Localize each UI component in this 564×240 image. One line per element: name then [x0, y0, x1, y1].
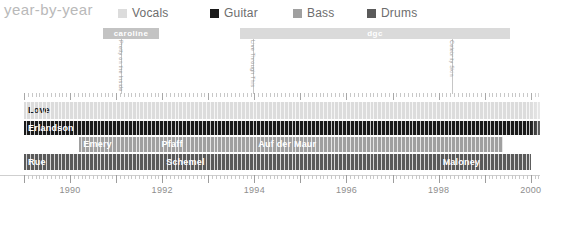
member-bar[interactable]: Auf der Maur — [254, 137, 503, 152]
axis-tick — [128, 175, 129, 179]
ruler-tick — [128, 93, 129, 97]
ruler-tick — [24, 93, 25, 100]
ruler-tick — [212, 93, 213, 97]
ruler-tick — [396, 93, 397, 97]
axis-tick — [289, 175, 290, 179]
ruler-tick — [458, 93, 459, 97]
ruler-tick — [216, 93, 217, 97]
ruler-tick — [112, 93, 113, 97]
ruler-tick — [120, 93, 121, 97]
ruler-tick — [473, 93, 474, 97]
ruler-tick — [251, 93, 252, 97]
axis-tick — [89, 175, 90, 179]
axis-tick — [101, 175, 102, 179]
axis-tick — [247, 175, 248, 179]
member-bar[interactable]: Maloney — [439, 154, 531, 170]
ruler-tick — [442, 93, 443, 97]
axis-tick — [427, 175, 428, 179]
album-title: Celebrity Skin — [449, 40, 455, 77]
member-bar[interactable]: Erlandson — [24, 121, 540, 135]
record-label-name: dgc — [367, 30, 383, 38]
axis-tick — [366, 175, 367, 179]
ruler-tick — [504, 93, 505, 97]
member-name: Erlandson — [24, 124, 74, 133]
ruler-tick — [247, 93, 248, 97]
axis-tick — [512, 175, 513, 179]
axis-tick — [51, 175, 52, 179]
axis-tick — [85, 175, 86, 179]
axis-tick — [78, 175, 79, 179]
axis-tick — [373, 175, 374, 179]
axis-tick — [181, 175, 182, 179]
ruler-tick — [381, 93, 382, 97]
member-bar[interactable]: Pfaff — [158, 137, 255, 152]
ruler-tick — [527, 93, 528, 97]
axis-tick — [404, 175, 405, 179]
axis-tick — [335, 175, 336, 179]
ruler-tick — [131, 93, 132, 97]
axis-tick-label: 2000 — [520, 185, 541, 195]
ruler-tick — [477, 93, 478, 97]
axis-tick — [97, 175, 98, 179]
axis-tick — [216, 175, 217, 179]
ruler-tick — [308, 93, 309, 97]
top-ruler — [0, 93, 564, 100]
axis-tick — [197, 175, 198, 179]
ruler-tick — [446, 93, 447, 97]
member-name: Pfaff — [158, 140, 183, 149]
axis-tick — [466, 175, 467, 179]
ruler-tick — [231, 93, 232, 97]
axis-tick — [24, 175, 25, 183]
ruler-tick — [538, 93, 539, 97]
axis-tick — [454, 175, 455, 179]
axis-tick — [39, 175, 40, 179]
axis-tick — [204, 175, 205, 179]
axis-tick — [500, 175, 501, 179]
ruler-tick — [204, 93, 205, 97]
member-name: Auf der Maur — [254, 140, 316, 149]
axis-tick — [446, 175, 447, 179]
ruler-tick — [139, 93, 140, 97]
ruler-tick — [366, 93, 367, 97]
ruler-tick — [320, 93, 321, 97]
ruler-tick — [285, 93, 286, 97]
ruler-tick — [373, 93, 374, 97]
axis-tick — [515, 175, 516, 179]
ruler-tick — [354, 93, 355, 97]
member-bar[interactable]: Rue — [24, 154, 162, 170]
axis-tick — [251, 175, 252, 179]
member-bar[interactable]: Emery — [79, 137, 157, 152]
axis-tick-label: 1996 — [336, 185, 357, 195]
ruler-tick — [155, 93, 156, 97]
ruler-tick — [362, 93, 363, 97]
axis-tick — [327, 175, 328, 179]
axis-tick — [266, 175, 267, 179]
axis-tick — [131, 175, 132, 179]
axis-tick — [193, 175, 194, 179]
axis-tick — [105, 175, 106, 179]
ruler-tick — [108, 93, 109, 97]
ruler-tick — [496, 93, 497, 97]
axis-tick — [320, 175, 321, 179]
axis-tick — [239, 175, 240, 179]
ruler-tick — [166, 93, 167, 97]
axis-tick — [270, 175, 271, 179]
ruler-tick — [423, 93, 424, 97]
axis-tick — [82, 175, 83, 179]
ruler-tick — [277, 93, 278, 97]
ruler-tick — [143, 93, 144, 97]
member-bar[interactable]: Love — [24, 102, 540, 119]
ruler-tick — [316, 93, 317, 97]
axis-tick — [316, 175, 317, 179]
ruler-tick — [419, 93, 420, 97]
ruler-tick — [512, 93, 513, 97]
record-label-band: dgc — [240, 28, 510, 39]
member-bar[interactable]: Schemel — [162, 154, 438, 170]
ruler-tick — [508, 93, 509, 97]
ruler-tick — [32, 93, 33, 97]
axis-tick-label: 1990 — [59, 185, 80, 195]
ruler-tick — [124, 93, 125, 97]
ruler-tick — [47, 93, 48, 97]
ruler-tick — [162, 93, 163, 100]
axis-tick — [393, 175, 394, 183]
